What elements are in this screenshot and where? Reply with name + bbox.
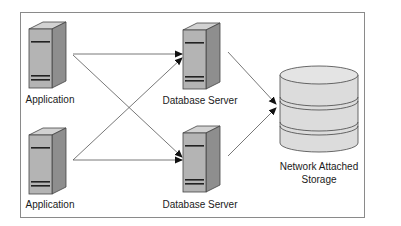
application-1-label: Application: [20, 94, 80, 106]
edge-app2-db1: [73, 58, 182, 160]
network-storage-icon: [280, 66, 358, 152]
application-2-label: Application: [20, 199, 80, 211]
database-server-2-label: Database Server: [160, 199, 240, 211]
database-server-1-icon: [183, 23, 220, 89]
network-storage-label-line1: Network Attached: [275, 161, 363, 173]
network-storage-label-line2: Storage: [275, 174, 363, 186]
application-server-1-icon: [29, 22, 66, 88]
diagram-canvas: [0, 0, 401, 226]
database-server-1-label: Database Server: [160, 95, 240, 107]
edge-db2-nas: [228, 108, 276, 156]
database-server-2-icon: [183, 126, 220, 192]
application-server-2-icon: [29, 128, 66, 194]
